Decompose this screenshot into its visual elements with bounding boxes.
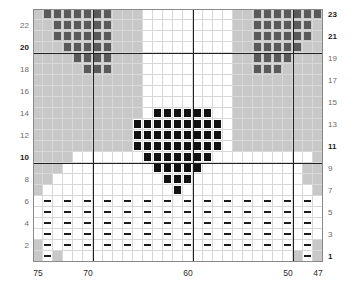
pattern-cell[interactable]: [93, 119, 103, 130]
pattern-cell[interactable]: [253, 42, 263, 53]
pattern-cell[interactable]: [103, 240, 113, 251]
pattern-cell[interactable]: [173, 20, 183, 31]
pattern-cell[interactable]: [273, 97, 283, 108]
pattern-cell[interactable]: [133, 64, 143, 75]
pattern-cell[interactable]: [143, 53, 153, 64]
pattern-cell[interactable]: [203, 141, 213, 152]
pattern-cell[interactable]: [283, 251, 293, 262]
pattern-cell[interactable]: [233, 185, 243, 196]
pattern-cell[interactable]: [253, 240, 263, 251]
pattern-cell[interactable]: [153, 130, 163, 141]
pattern-cell[interactable]: [283, 108, 293, 119]
pattern-cell[interactable]: [313, 97, 323, 108]
pattern-cell[interactable]: [263, 185, 273, 196]
pattern-cell[interactable]: [43, 53, 53, 64]
pattern-cell[interactable]: [163, 152, 173, 163]
pattern-cell[interactable]: [293, 207, 303, 218]
pattern-cell[interactable]: [93, 42, 103, 53]
pattern-cell[interactable]: [213, 130, 223, 141]
pattern-cell[interactable]: [303, 64, 313, 75]
pattern-cell[interactable]: [123, 196, 133, 207]
pattern-cell[interactable]: [233, 251, 243, 262]
pattern-cell[interactable]: [173, 64, 183, 75]
pattern-cell[interactable]: [113, 185, 123, 196]
pattern-cell[interactable]: [43, 64, 53, 75]
pattern-cell[interactable]: [223, 75, 233, 86]
pattern-cell[interactable]: [213, 196, 223, 207]
pattern-cell[interactable]: [63, 53, 73, 64]
pattern-cell[interactable]: [93, 207, 103, 218]
pattern-cell[interactable]: [263, 42, 273, 53]
pattern-cell[interactable]: [283, 86, 293, 97]
pattern-cell[interactable]: [33, 9, 43, 20]
pattern-cell[interactable]: [253, 31, 263, 42]
pattern-cell[interactable]: [193, 141, 203, 152]
pattern-cell[interactable]: [93, 174, 103, 185]
pattern-cell[interactable]: [293, 20, 303, 31]
pattern-cell[interactable]: [73, 141, 83, 152]
pattern-cell[interactable]: [83, 240, 93, 251]
pattern-cell[interactable]: [113, 163, 123, 174]
pattern-cell[interactable]: [273, 218, 283, 229]
pattern-cell[interactable]: [313, 31, 323, 42]
pattern-cell[interactable]: [53, 64, 63, 75]
pattern-cell[interactable]: [113, 53, 123, 64]
pattern-cell[interactable]: [143, 174, 153, 185]
pattern-cell[interactable]: [53, 196, 63, 207]
pattern-cell[interactable]: [223, 64, 233, 75]
pattern-cell[interactable]: [213, 20, 223, 31]
pattern-cell[interactable]: [213, 218, 223, 229]
pattern-cell[interactable]: [63, 130, 73, 141]
pattern-cell[interactable]: [243, 75, 253, 86]
pattern-cell[interactable]: [93, 240, 103, 251]
pattern-cell[interactable]: [173, 130, 183, 141]
pattern-cell[interactable]: [213, 9, 223, 20]
pattern-cell[interactable]: [143, 218, 153, 229]
pattern-cell[interactable]: [53, 42, 63, 53]
pattern-cell[interactable]: [243, 251, 253, 262]
pattern-cell[interactable]: [113, 240, 123, 251]
pattern-cell[interactable]: [193, 207, 203, 218]
pattern-cell[interactable]: [263, 152, 273, 163]
pattern-cell[interactable]: [153, 141, 163, 152]
pattern-cell[interactable]: [103, 218, 113, 229]
pattern-cell[interactable]: [163, 75, 173, 86]
pattern-cell[interactable]: [33, 240, 43, 251]
pattern-cell[interactable]: [303, 218, 313, 229]
pattern-cell[interactable]: [243, 229, 253, 240]
pattern-cell[interactable]: [153, 196, 163, 207]
pattern-cell[interactable]: [53, 229, 63, 240]
pattern-cell[interactable]: [173, 251, 183, 262]
pattern-cell[interactable]: [53, 31, 63, 42]
pattern-cell[interactable]: [163, 97, 173, 108]
pattern-cell[interactable]: [103, 207, 113, 218]
pattern-cell[interactable]: [153, 97, 163, 108]
pattern-cell[interactable]: [33, 119, 43, 130]
pattern-cell[interactable]: [313, 251, 323, 262]
pattern-cell[interactable]: [243, 20, 253, 31]
pattern-cell[interactable]: [63, 152, 73, 163]
pattern-cell[interactable]: [293, 97, 303, 108]
pattern-cell[interactable]: [73, 130, 83, 141]
pattern-cell[interactable]: [93, 97, 103, 108]
pattern-cell[interactable]: [163, 130, 173, 141]
pattern-cell[interactable]: [103, 152, 113, 163]
pattern-cell[interactable]: [163, 86, 173, 97]
pattern-cell[interactable]: [153, 119, 163, 130]
pattern-cell[interactable]: [133, 86, 143, 97]
pattern-cell[interactable]: [153, 218, 163, 229]
pattern-cell[interactable]: [153, 152, 163, 163]
pattern-cell[interactable]: [153, 240, 163, 251]
pattern-cell[interactable]: [143, 108, 153, 119]
pattern-cell[interactable]: [193, 196, 203, 207]
pattern-cell[interactable]: [293, 251, 303, 262]
pattern-cell[interactable]: [63, 108, 73, 119]
pattern-cell[interactable]: [223, 119, 233, 130]
pattern-cell[interactable]: [143, 20, 153, 31]
pattern-cell[interactable]: [73, 185, 83, 196]
pattern-cell[interactable]: [293, 119, 303, 130]
pattern-cell[interactable]: [213, 141, 223, 152]
pattern-cell[interactable]: [233, 9, 243, 20]
pattern-cell[interactable]: [93, 20, 103, 31]
pattern-cell[interactable]: [203, 130, 213, 141]
